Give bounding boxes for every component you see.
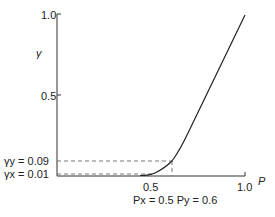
y-tick-1: 1.0 xyxy=(41,9,56,21)
chart-plot xyxy=(0,0,275,217)
gamma-x-label: γx = 0.01 xyxy=(4,168,49,180)
x-tick-1: 1.0 xyxy=(237,181,252,193)
x-tick-05: 0.5 xyxy=(143,181,158,193)
curve xyxy=(140,15,245,176)
x-axis-label: P xyxy=(258,175,265,187)
px-py-label: Px = 0.5 Py = 0.6 xyxy=(133,194,217,206)
gamma-y-label: γy = 0.09 xyxy=(4,155,49,167)
y-axis-label: γ xyxy=(36,47,42,59)
y-tick-05: 0.5 xyxy=(41,90,56,102)
